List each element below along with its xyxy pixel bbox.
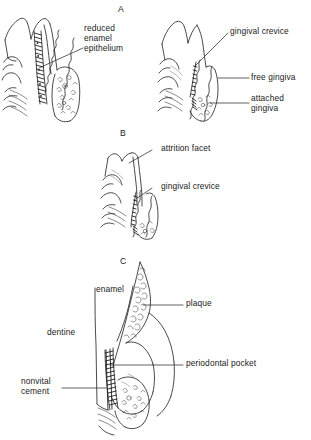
label-enamel: enamel bbox=[96, 285, 124, 295]
leader-gingival-crevice-b bbox=[136, 188, 152, 199]
label-free-gingiva: free gingiva bbox=[251, 73, 296, 83]
label-periodontal-pocket: periodontal pocket bbox=[186, 359, 256, 369]
panel-a-left-illustration bbox=[2, 18, 83, 122]
leader-attrition-facet bbox=[129, 150, 152, 163]
label-gingival-crevice-a: gingival crevice bbox=[230, 27, 289, 37]
label-attached-gingiva-line2: gingiva bbox=[251, 104, 278, 114]
figure-artwork bbox=[0, 0, 311, 440]
label-dentine: dentine bbox=[47, 328, 75, 338]
label-gingival-crevice-b: gingival crevice bbox=[161, 182, 220, 192]
plaque-texture bbox=[124, 268, 147, 338]
panel-letter-b: B bbox=[120, 129, 126, 138]
gingival-crevice-wedge-a bbox=[190, 62, 197, 97]
panel-letter-a: A bbox=[118, 5, 124, 14]
leader-reduced-enamel-epithelium bbox=[39, 48, 83, 68]
panel-b-illustration bbox=[101, 150, 158, 239]
leader-gingival-crevice-a bbox=[195, 33, 228, 66]
label-nonvital-cement-line2: cement bbox=[21, 387, 49, 397]
label-plaque: plaque bbox=[186, 299, 212, 309]
label-reduced-enamel-epithelium-line3: epithelium bbox=[84, 44, 123, 54]
panel-letter-c: C bbox=[120, 257, 126, 266]
dental-figure: A B C reduced enamel epithelium gingival… bbox=[0, 0, 311, 440]
label-attrition-facet: attrition facet bbox=[161, 144, 210, 154]
nonvital-cement-band bbox=[105, 348, 118, 410]
